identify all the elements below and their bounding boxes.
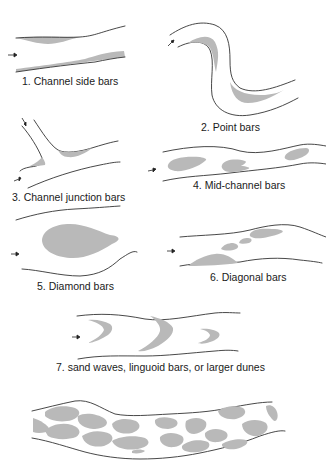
panel-braided-bars (32, 401, 285, 459)
panel-label: 6. Diagonal bars (210, 272, 286, 283)
mid-channel-bar-1 (168, 157, 206, 171)
tributary-right-bank (34, 120, 118, 152)
diamond-bar (42, 224, 119, 258)
linguoid-bar-3 (198, 329, 220, 344)
bar-types-diagram (0, 0, 326, 465)
flow-arrow-icon (11, 252, 19, 256)
braid-bar (155, 417, 178, 429)
flow-arrow-icon (72, 335, 80, 339)
braid-bar (45, 424, 79, 439)
braid-bar (82, 431, 112, 446)
panel-channel-side-bars (8, 26, 125, 72)
flow-arrow-icon (148, 168, 156, 172)
linguoid-bar-1 (88, 320, 112, 343)
panel-diamond-bars (11, 206, 137, 276)
panel-label: 3. Channel junction bars (12, 192, 125, 203)
junction-bar-left (30, 157, 45, 166)
panel-label: 4. Mid-channel bars (193, 180, 285, 191)
braid-bar (112, 419, 139, 434)
diagonal-bar-1 (188, 254, 238, 266)
panel-channel-junction-bars (14, 118, 120, 188)
braid-bar (78, 414, 107, 429)
braid-bar (132, 450, 145, 454)
braid-bar (205, 429, 228, 442)
braid-bar (222, 439, 247, 449)
diagonal-bar-2 (221, 243, 238, 251)
point-bar-lower (230, 82, 284, 103)
panel-label: 7. sand waves, linguoid bars, or larger … (56, 362, 265, 373)
upper-bank (16, 26, 125, 38)
panel-sand-waves (72, 313, 240, 359)
lower-bank (16, 57, 125, 72)
diagonal-bar-4 (250, 229, 283, 239)
panel-mid-channel-bars (148, 144, 326, 181)
mid-channel-bar-3 (285, 148, 309, 160)
flow-arrow-icon (14, 177, 21, 181)
panel-label: 2. Point bars (201, 122, 260, 133)
mid-channel-bar-2 (222, 160, 250, 172)
panel-diagonal-bars (167, 225, 326, 266)
braid-bar (45, 406, 79, 421)
panel-label: 1. Channel side bars (22, 76, 118, 87)
flow-arrow-icon (8, 53, 17, 57)
braid-bar (185, 418, 206, 434)
braid-bar (218, 406, 245, 419)
braid-bar (266, 405, 278, 421)
braid-bar (242, 420, 268, 436)
upper-bank (16, 206, 120, 220)
main-lower-bank (28, 162, 120, 188)
flow-arrow-icon (22, 118, 26, 126)
panel-label: 5. Diamond bars (37, 281, 114, 292)
side-bar-lower (16, 51, 125, 72)
flow-arrow-icon (167, 249, 175, 253)
point-bar-upper (188, 37, 218, 72)
flow-arrow-icon (168, 40, 174, 46)
braid-bar (112, 436, 149, 449)
diagonal-bar-3 (239, 238, 252, 244)
inner-bank (178, 42, 298, 116)
lower-bank (78, 350, 238, 359)
braid-bar (160, 433, 184, 447)
panel-point-bars (168, 23, 298, 116)
linguoid-bar-2 (138, 316, 173, 351)
outer-bank (170, 23, 295, 91)
braid-bar (182, 440, 209, 452)
